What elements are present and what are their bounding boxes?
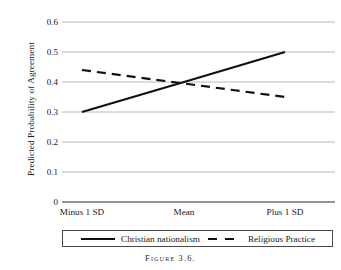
legend-entry-christian-nationalism: Christian nationalism bbox=[80, 234, 200, 244]
x-tick-label-minus-1-sd: Minus 1 SD bbox=[60, 207, 104, 217]
series-line-religious-practice bbox=[82, 70, 285, 97]
x-tick-label-plus-1-sd: Plus 1 SD bbox=[267, 207, 304, 217]
gridlines bbox=[62, 22, 335, 172]
legend-label-religious-practice: Religious Practice bbox=[248, 234, 315, 244]
chart-legend: Christian nationalism Religious Practice bbox=[62, 230, 333, 247]
figure-3-6: Predicted Probability of Agreement 0.6 0… bbox=[0, 0, 341, 270]
legend-entry-religious-practice: Religious Practice bbox=[207, 234, 315, 244]
legend-label-christian-nationalism: Christian nationalism bbox=[121, 234, 200, 244]
figure-caption: Figure 3.6. bbox=[0, 254, 341, 263]
legend-swatch-dashed bbox=[207, 234, 243, 244]
x-tick-label-mean: Mean bbox=[174, 207, 195, 217]
legend-swatch-solid bbox=[80, 234, 116, 244]
